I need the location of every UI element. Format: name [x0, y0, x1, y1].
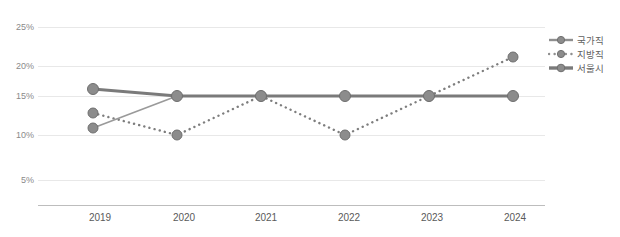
- data-point: [256, 91, 267, 102]
- legend-marker-line-circle-thick-icon: [548, 61, 574, 75]
- y-tick-label: 20%: [16, 61, 34, 71]
- series-seoulsi: [88, 84, 519, 102]
- legend-marker-dotted-circle-icon: [548, 47, 574, 61]
- y-tick-label: 5%: [21, 175, 34, 185]
- series-line-gukgajik: [93, 96, 513, 128]
- legend-item-seoulsi[interactable]: 서울시: [548, 61, 618, 75]
- line-chart-plot: 25% 20% 15% 10% 5%: [0, 0, 620, 237]
- data-point: [508, 91, 519, 102]
- legend-item-gukgajik[interactable]: 국가직: [548, 33, 618, 47]
- data-point: [88, 123, 98, 133]
- x-axis-tick-labels: 2019 2020 2021 2022 2023 2024: [89, 212, 527, 223]
- data-point: [88, 84, 99, 95]
- data-point: [172, 91, 183, 102]
- x-tick-label: 2021: [255, 212, 278, 223]
- series-line-seoulsi: [93, 89, 513, 96]
- y-tick-label: 15%: [16, 91, 34, 101]
- data-point: [340, 91, 351, 102]
- x-tick-label: 2020: [173, 212, 196, 223]
- data-point: [508, 52, 518, 62]
- x-tick-label: 2024: [504, 212, 527, 223]
- legend-label: 지방직: [574, 47, 603, 61]
- legend-marker-line-circle-thin-icon: [548, 33, 574, 47]
- y-axis-tick-labels: 25% 20% 15% 10% 5%: [16, 22, 34, 185]
- data-point: [88, 108, 98, 118]
- data-point: [424, 91, 435, 102]
- chart-container: 25% 20% 15% 10% 5%: [0, 0, 620, 237]
- data-point: [340, 130, 350, 140]
- gridlines: [38, 27, 545, 180]
- legend-item-jibangjik[interactable]: 지방직: [548, 47, 618, 61]
- legend-label: 서울시: [574, 61, 603, 75]
- x-tick-label: 2022: [338, 212, 361, 223]
- legend-label: 국가직: [574, 33, 603, 47]
- chart-legend: 국가직 지방직 서울시: [548, 33, 618, 75]
- y-tick-label: 25%: [16, 22, 34, 32]
- data-point: [172, 130, 182, 140]
- x-tick-label: 2019: [89, 212, 112, 223]
- x-tick-label: 2023: [421, 212, 444, 223]
- y-tick-label: 10%: [16, 130, 34, 140]
